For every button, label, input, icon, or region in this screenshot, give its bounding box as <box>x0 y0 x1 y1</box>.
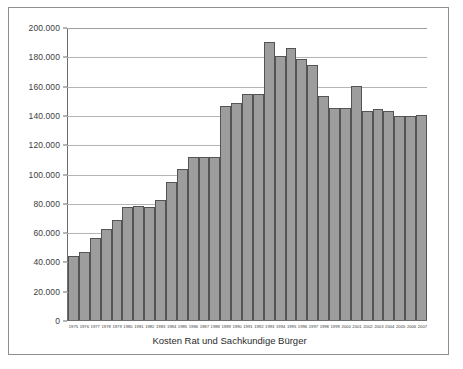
bar <box>329 108 340 320</box>
x-axis-tick-label: 2004 <box>384 323 395 330</box>
bar <box>296 59 307 320</box>
x-axis-tick-label: 1991 <box>243 323 254 330</box>
bar-slot <box>133 28 144 320</box>
bar <box>253 94 264 320</box>
y-axis-tick-label: 200.000 <box>29 23 60 33</box>
y-axis-tick-label: 140.000 <box>29 111 60 121</box>
x-axis-tick-label: 1992 <box>253 323 264 330</box>
x-axis-tick-label: 1981 <box>133 323 144 330</box>
bar-slot <box>90 28 101 320</box>
x-axis-tick-label: 1975 <box>68 323 79 330</box>
bar <box>307 65 318 320</box>
bar <box>177 169 188 320</box>
bar <box>286 48 297 320</box>
y-axis-tick-label: 100.000 <box>29 170 60 180</box>
bar-slot <box>340 28 351 320</box>
bar-slot <box>166 28 177 320</box>
x-axis-tick-label: 1994 <box>275 323 286 330</box>
bar-slot <box>188 28 199 320</box>
bar-slot <box>122 28 133 320</box>
bar-slot <box>373 28 384 320</box>
y-axis-tick-mark <box>63 145 67 146</box>
x-axis-tick-label: 1998 <box>319 323 330 330</box>
bar <box>144 207 155 320</box>
y-axis-tick-label: 40.000 <box>33 257 60 267</box>
x-axis-tick-label: 1986 <box>188 323 199 330</box>
x-axis-title: Kosten Rat und Sachkundige Bürger <box>9 335 450 346</box>
bar <box>220 106 231 320</box>
bar <box>155 200 166 320</box>
y-axis-tick-mark <box>63 321 67 322</box>
bar-slot <box>177 28 188 320</box>
x-axis-tick-label: 1989 <box>221 323 232 330</box>
x-axis-tick-label: 1983 <box>155 323 166 330</box>
x-axis-tick-label: 1985 <box>177 323 188 330</box>
bar-slot <box>286 28 297 320</box>
y-axis-tick-label: 160.000 <box>29 82 60 92</box>
bar <box>351 86 362 320</box>
y-axis-tick-label: 0 <box>55 316 60 326</box>
x-axis-tick-label: 2007 <box>417 323 428 330</box>
bar-slot <box>220 28 231 320</box>
bar <box>383 111 394 320</box>
bar-slot <box>329 28 340 320</box>
bar <box>231 103 242 320</box>
y-axis-tick-mark <box>63 86 67 87</box>
x-axis-tick-label: 1990 <box>232 323 243 330</box>
x-axis-tick-label: 1999 <box>330 323 341 330</box>
x-axis-tick-label: 1977 <box>90 323 101 330</box>
x-axis-tick-labels: 1975197619771978197919801981198219831984… <box>68 323 428 330</box>
y-axis-tick-mark <box>63 233 67 234</box>
bar-slot <box>231 28 242 320</box>
bar-slot <box>383 28 394 320</box>
x-axis-tick-label: 1993 <box>264 323 275 330</box>
bar-slot <box>79 28 90 320</box>
x-axis-tick-label: 2002 <box>362 323 373 330</box>
x-axis-tick-label: 2005 <box>395 323 406 330</box>
bar <box>275 56 286 320</box>
y-axis-tick-mark <box>63 291 67 292</box>
y-axis-tick-mark <box>63 174 67 175</box>
bar-slot <box>253 28 264 320</box>
bar-slot <box>296 28 307 320</box>
y-axis-tick-label: 60.000 <box>33 228 60 238</box>
bar <box>373 109 384 320</box>
plot-area: 200.000180.000160.000140.000120.000100.0… <box>67 28 427 321</box>
bar <box>405 116 416 320</box>
bar-slot <box>101 28 112 320</box>
bar-slot <box>112 28 123 320</box>
x-axis-tick-label: 1997 <box>308 323 319 330</box>
y-axis-tick-mark <box>63 28 67 29</box>
x-axis-tick-label: 1995 <box>286 323 297 330</box>
y-axis-tick-label: 20.000 <box>33 287 60 297</box>
bar-slot <box>307 28 318 320</box>
bar <box>188 157 199 320</box>
bar-slot <box>405 28 416 320</box>
bar-slot <box>318 28 329 320</box>
bar <box>79 252 90 320</box>
bar <box>340 108 351 320</box>
y-axis-tick-label: 80.000 <box>33 199 60 209</box>
bar-slot <box>264 28 275 320</box>
x-axis-tick-label: 1984 <box>166 323 177 330</box>
bar <box>362 111 373 320</box>
bar <box>133 206 144 320</box>
y-axis-tick-label: 120.000 <box>29 140 60 150</box>
y-axis-tick-mark <box>63 57 67 58</box>
y-axis-tick-mark <box>63 262 67 263</box>
x-axis-tick-label: 1980 <box>123 323 134 330</box>
x-axis-tick-label: 2001 <box>352 323 363 330</box>
x-axis-tick-label: 1988 <box>210 323 221 330</box>
bar <box>318 96 329 320</box>
y-axis-tick-mark <box>63 115 67 116</box>
bar <box>90 238 101 320</box>
x-axis-tick-label: 1996 <box>297 323 308 330</box>
y-axis-tick-mark <box>63 203 67 204</box>
bar <box>112 220 123 320</box>
bar-slot <box>199 28 210 320</box>
bar <box>264 42 275 320</box>
y-axis-tick-label: 180.000 <box>29 52 60 62</box>
bar-slot <box>416 28 427 320</box>
x-axis-tick-label: 1982 <box>144 323 155 330</box>
bar-series <box>68 28 427 320</box>
